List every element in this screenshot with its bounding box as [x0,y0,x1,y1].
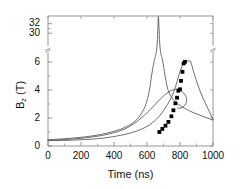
curve-2 [48,89,187,140]
axis-break-marks [45,46,215,52]
data-point-marker [175,96,179,100]
axis-break-mark [45,46,50,52]
data-point-marker [164,124,168,128]
axis-ticks [48,16,213,146]
data-point-marker [172,108,176,112]
y-axis-title-main: B [14,102,26,109]
chart-figure: 02463032 02004006008001000 Bz (T) Time (… [0,0,246,189]
data-point-marker [179,79,183,83]
data-point-marker [178,87,182,91]
data-point-marker [183,60,187,64]
y-axis-title: Bz (T) [14,65,28,125]
y-axis-title-subscript: z [19,98,28,102]
plot-frame [48,16,213,146]
scatter-series-group [157,60,186,134]
curve-1 [48,17,213,140]
axis-break-mark [210,46,215,52]
data-point-marker [167,120,171,124]
x-axis-title: Time (ns) [48,168,213,180]
curve-3 [48,61,213,141]
y-tick-label: 30 [0,27,40,38]
data-point-marker [170,114,174,118]
curve-series-group [48,17,213,141]
x-tick-label: 1000 [193,150,233,161]
y-tick-label: 0 [0,140,40,151]
data-point-marker [173,101,177,105]
y-tick-label: 32 [0,17,40,28]
y-axis-title-unit: (T) [14,81,26,98]
data-point-marker [181,70,185,74]
